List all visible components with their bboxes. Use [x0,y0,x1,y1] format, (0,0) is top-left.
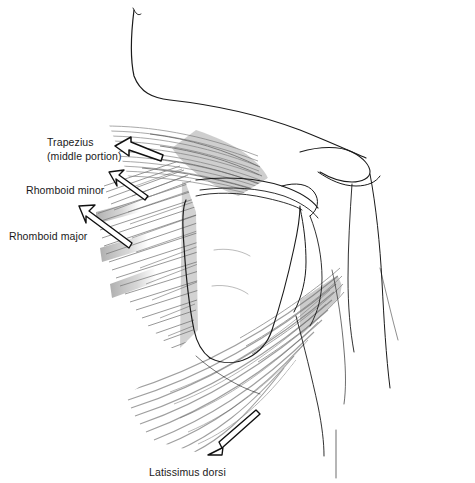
label-rhomboid-major: Rhomboid major [9,230,88,242]
label-rhomboid-minor: Rhomboid minor [26,184,105,196]
anatomical-figure: Trapezius (middle portion) Rhomboid mino… [0,0,475,483]
label-trapezius-line1: Trapezius [47,136,94,148]
label-trapezius-line2: (middle portion) [47,150,122,162]
anatomy-illustration: Trapezius (middle portion) Rhomboid mino… [0,0,475,483]
label-latissimus-dorsi: Latissimus dorsi [149,466,226,478]
